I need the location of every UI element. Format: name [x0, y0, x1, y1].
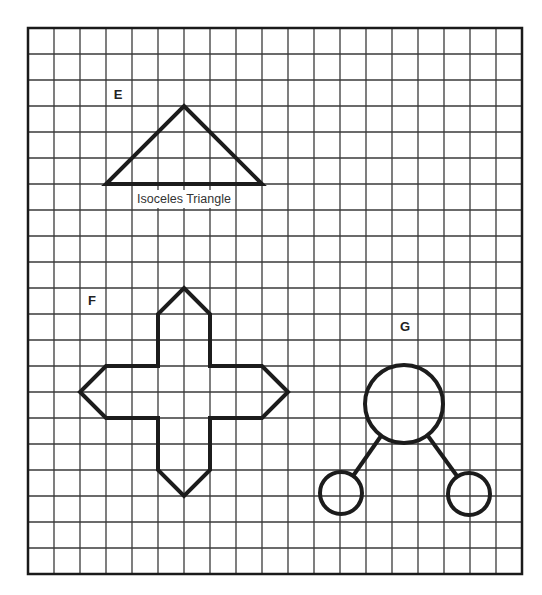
graph-paper-canvas: E Isoceles Triangle F G: [0, 0, 542, 595]
figure-label-g: G: [400, 319, 410, 334]
figure-label-f: F: [88, 293, 96, 308]
figure-label-e: E: [114, 87, 123, 102]
triangle-caption: Isoceles Triangle: [137, 192, 231, 206]
main-circle: [365, 365, 443, 443]
child-circle-left: [320, 472, 362, 514]
figure-g: G: [320, 319, 490, 515]
child-circle-right: [448, 473, 490, 515]
